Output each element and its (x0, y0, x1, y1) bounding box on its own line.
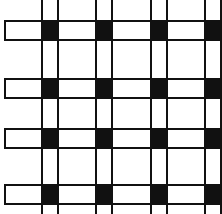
intersection-square-h4-v2 (95, 184, 113, 205)
horizontal-band-h4 (4, 184, 222, 205)
horizontal-band-h3 (4, 128, 222, 149)
intersection-square-h1-v2 (95, 20, 113, 41)
intersection-square-h4-v4 (204, 184, 222, 205)
horizontal-band-h2 (4, 78, 222, 99)
intersection-square-h2-v3 (150, 78, 168, 99)
intersection-square-h1-v1 (41, 20, 59, 41)
intersection-square-h3-v1 (41, 128, 59, 149)
horizontal-band-h1 (4, 20, 222, 41)
intersection-square-h4-v3 (150, 184, 168, 205)
intersection-square-h1-v4 (204, 20, 222, 41)
woven-lattice-figure (0, 0, 222, 214)
intersection-square-h2-v4 (204, 78, 222, 99)
intersection-square-h1-v3 (150, 20, 168, 41)
intersection-square-h2-v2 (95, 78, 113, 99)
intersection-square-h2-v1 (41, 78, 59, 99)
intersection-square-h3-v3 (150, 128, 168, 149)
intersection-square-h3-v2 (95, 128, 113, 149)
intersection-square-h3-v4 (204, 128, 222, 149)
intersection-square-h4-v1 (41, 184, 59, 205)
